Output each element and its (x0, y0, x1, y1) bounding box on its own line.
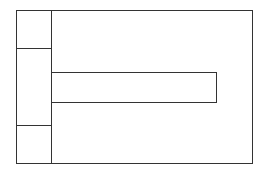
left-column-bottom-separator (16, 125, 52, 126)
inner-horizontal-bar (51, 72, 217, 103)
left-column-top-separator (16, 48, 52, 49)
